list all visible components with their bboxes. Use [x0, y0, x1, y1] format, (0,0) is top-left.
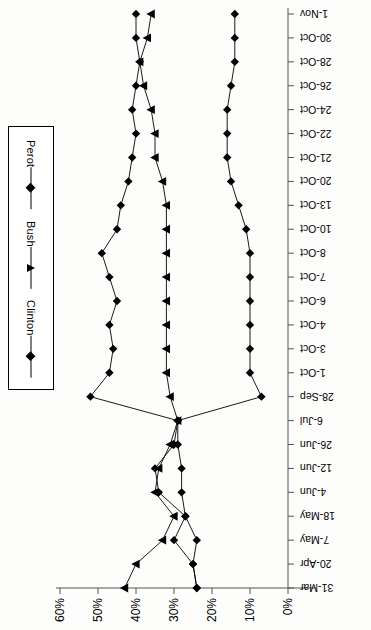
value-tick-label: 40% — [129, 598, 143, 622]
category-tick-label: 4-Jun — [300, 486, 326, 498]
category-tick-label: 30-Oct — [300, 32, 332, 44]
category-tick-label: 28-Sep — [300, 391, 334, 403]
category-tick-label: 7-May — [300, 534, 329, 546]
data-point — [177, 488, 185, 496]
data-point — [162, 321, 170, 330]
data-point — [132, 129, 140, 137]
category-tick-label: 3-Oct — [300, 343, 326, 355]
data-point — [128, 105, 136, 113]
data-point — [246, 345, 254, 353]
category-tick-label: 31-Mar — [300, 582, 333, 594]
data-point — [128, 153, 136, 161]
data-point — [246, 297, 254, 305]
data-point — [109, 345, 117, 353]
data-point — [234, 201, 242, 209]
data-point — [223, 153, 231, 161]
value-tick-label: 50% — [91, 598, 105, 622]
data-point — [162, 249, 170, 258]
series-bush — [120, 10, 182, 593]
data-point — [162, 344, 170, 353]
category-tick-label: 6-Jul — [300, 415, 323, 427]
value-tick-label: 0% — [281, 598, 295, 615]
data-point — [162, 368, 170, 377]
series-perot — [174, 10, 266, 592]
value-tick-label: 60% — [53, 598, 67, 622]
data-point — [246, 249, 254, 257]
data-point — [117, 201, 125, 209]
data-point — [227, 177, 235, 185]
data-point — [162, 225, 170, 234]
category-tick-label: 26-Jun — [300, 439, 332, 451]
category-tick-label: 22-Oct — [300, 128, 332, 140]
data-point — [231, 58, 239, 66]
category-tick-label: 13-Oct — [300, 199, 332, 211]
data-point — [193, 536, 201, 544]
category-tick-label: 26-Oct — [300, 80, 332, 92]
data-point — [242, 225, 250, 233]
data-point — [105, 321, 113, 329]
category-tick-label: 20-Apr — [300, 558, 332, 570]
data-point — [177, 464, 185, 472]
category-tick-label: 8-Oct — [300, 247, 326, 259]
data-point — [162, 273, 170, 282]
data-point — [150, 153, 158, 162]
data-point — [113, 297, 121, 305]
category-tick-label: 24-Oct — [300, 104, 332, 116]
data-point — [132, 34, 140, 42]
category-tick-label: 6-Oct — [300, 295, 326, 307]
data-point — [227, 82, 235, 90]
category-tick-label: 4-Oct — [300, 319, 326, 331]
data-point — [86, 392, 94, 400]
data-point — [165, 440, 173, 449]
data-point — [150, 488, 158, 497]
data-point — [231, 34, 239, 42]
data-point — [105, 273, 113, 281]
category-tick-label: 7-Oct — [300, 271, 326, 283]
data-point — [246, 369, 254, 377]
data-point — [113, 225, 121, 233]
value-tick-label: 30% — [167, 598, 181, 622]
category-tick-label: 28-Oct — [300, 56, 332, 68]
data-point — [223, 105, 231, 113]
data-point — [257, 392, 265, 400]
category-tick-label: 12-Jun — [300, 462, 332, 474]
chart-canvas: Clinton Bush Perot 31-Mar20-Apr7-May18-M… — [0, 0, 371, 630]
data-point — [105, 369, 113, 377]
category-tick-label: 21-Oct — [300, 152, 332, 164]
category-tick-label: 18-May — [300, 510, 335, 522]
data-point — [131, 560, 139, 569]
axes — [56, 8, 316, 594]
data-point — [193, 584, 201, 592]
data-point — [98, 249, 106, 257]
data-point — [124, 177, 132, 185]
value-tick-label: 20% — [205, 598, 219, 622]
data-point — [231, 10, 239, 18]
data-point — [189, 560, 197, 568]
category-tick-label: 10-Oct — [300, 223, 332, 235]
data-point — [170, 536, 178, 544]
data-point — [132, 10, 140, 18]
category-tick-label: 1-Oct — [300, 367, 326, 379]
data-point — [120, 584, 128, 593]
value-tick-label: 10% — [243, 598, 257, 622]
data-point — [246, 273, 254, 281]
data-point — [162, 297, 170, 306]
data-point — [169, 512, 177, 521]
plot-area: 31-Mar20-Apr7-May18-May4-Jun12-Jun26-Jun… — [0, 0, 371, 630]
category-tick-label: 20-Oct — [300, 175, 332, 187]
category-tick-label: 1-Nov — [300, 8, 328, 20]
data-point — [246, 321, 254, 329]
data-point — [223, 129, 231, 137]
